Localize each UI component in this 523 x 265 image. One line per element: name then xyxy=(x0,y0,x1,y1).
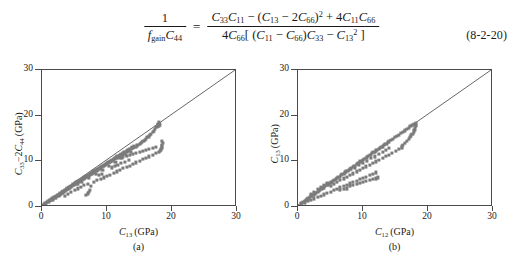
lhs-numerator: 1 xyxy=(158,11,172,26)
rhs-numerator: C33C11 − (C13 − 2C66)2 + 4C11C66 xyxy=(207,10,379,26)
panel-letter-a: (a) xyxy=(41,241,236,252)
x-tick-label: 30 xyxy=(477,212,507,222)
plot-area-b xyxy=(297,69,492,206)
scatter-point xyxy=(89,188,92,191)
c-symbol: C xyxy=(165,28,173,42)
scatter-point xyxy=(345,187,348,190)
rhs-fraction: C33C11 − (C13 − 2C66)2 + 4C11C66 4C66[ (… xyxy=(207,10,379,44)
equation-block: 1 fgainC44 = C33C11 − (C13 − 2C66)2 + 4C… xyxy=(0,6,523,58)
scatter-point xyxy=(124,160,127,163)
y-axis-label-b: C13 (GPa) xyxy=(269,89,281,199)
scatter-point xyxy=(154,146,157,149)
x-tick-label: 10 xyxy=(91,212,121,222)
chart-panel-a: C33−2C44 (GPa) C13 (GPa) (a) 01020300102… xyxy=(0,60,255,265)
scatter-point xyxy=(116,163,119,166)
y-tick-label: 20 xyxy=(0,110,33,120)
y-tick-label: 0 xyxy=(249,201,289,211)
equals-sign: = xyxy=(186,19,207,35)
x-tick-label: 20 xyxy=(412,212,442,222)
scatter-point xyxy=(120,162,123,165)
c-subscript: 44 xyxy=(174,34,182,43)
scatter-point xyxy=(76,187,79,190)
y-tick-label: 30 xyxy=(0,64,33,74)
x-axis-label-b: C12 (GPa) xyxy=(297,226,492,238)
scatter-point xyxy=(361,161,364,164)
scatter-point xyxy=(70,191,73,194)
rhs-denominator: 4C66[ (C11 − C66)C33 − C132 ] xyxy=(218,27,369,43)
scatter-point xyxy=(358,163,361,166)
x-tick-label: 20 xyxy=(156,212,186,222)
y-tick xyxy=(35,115,41,116)
y-tick-label: 10 xyxy=(249,156,289,166)
x-tick-label: 0 xyxy=(282,212,312,222)
scatter-point xyxy=(159,150,162,153)
scatter-point xyxy=(89,184,92,187)
scatter-point xyxy=(326,182,329,185)
scatter-point xyxy=(100,172,103,175)
lhs-fraction: 1 fgainC44 xyxy=(144,11,186,43)
plot-area-a xyxy=(41,69,236,206)
x-tick-label: 0 xyxy=(26,212,56,222)
scatter-point xyxy=(66,192,69,195)
scatter-point xyxy=(369,157,372,160)
equation-expression: 1 fgainC44 = C33C11 − (C13 − 2C66)2 + 4C… xyxy=(144,10,380,44)
x-axis-label-a: C13 (GPa) xyxy=(41,226,236,238)
scatter-point xyxy=(157,125,160,128)
y-tick xyxy=(35,160,41,161)
scatter-point xyxy=(365,160,368,163)
scatter-point xyxy=(128,159,131,162)
y-tick xyxy=(291,160,297,161)
x-tick-label: 30 xyxy=(221,212,251,222)
y-tick-label: 20 xyxy=(249,110,289,120)
lhs-denominator: fgainC44 xyxy=(144,27,186,43)
equation-number: (8-2-20) xyxy=(466,28,507,43)
scatter-point xyxy=(378,152,381,155)
figure-panels: C33−2C44 (GPa) C13 (GPa) (a) 01020300102… xyxy=(0,60,523,265)
chart-panel-b: C13 (GPa) C12 (GPa) (b) 01020300102030 xyxy=(256,60,511,265)
scatter-point xyxy=(373,155,376,158)
scatter-point xyxy=(374,171,377,174)
scatter-point xyxy=(160,139,163,142)
y-tick-label: 10 xyxy=(0,156,33,166)
panel-letter-b: (b) xyxy=(297,241,492,252)
scatter-point xyxy=(376,176,379,179)
scatter-point xyxy=(354,166,357,169)
scatter-point xyxy=(350,168,353,171)
x-tick-label: 10 xyxy=(347,212,377,222)
scatter-point xyxy=(63,194,66,197)
f-subscript: gain xyxy=(151,34,165,43)
y-tick xyxy=(291,69,297,70)
y-tick-label: 0 xyxy=(0,201,33,211)
y-tick-label: 30 xyxy=(249,64,289,74)
scatter-point xyxy=(400,146,403,149)
y-tick xyxy=(291,115,297,116)
scatter-point xyxy=(85,193,88,196)
y-axis-label-a: C33−2C44 (GPa) xyxy=(13,89,25,199)
y-tick xyxy=(35,69,41,70)
scatter-point xyxy=(387,147,390,150)
